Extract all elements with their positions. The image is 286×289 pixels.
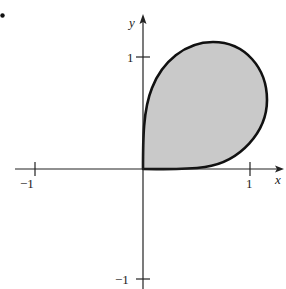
shaded-region [143,42,267,169]
bullet-marker [0,13,4,17]
x-tick-label-neg1: −1 [20,176,34,191]
x-tick-label-1: 1 [246,176,253,191]
polar-region-diagram: −1 1 1 −1 x y [0,0,286,289]
y-axis-label: y [127,15,135,30]
y-tick-label-neg1: −1 [115,272,129,287]
x-axis-label: x [274,172,281,187]
y-tick-label-1: 1 [127,50,134,65]
